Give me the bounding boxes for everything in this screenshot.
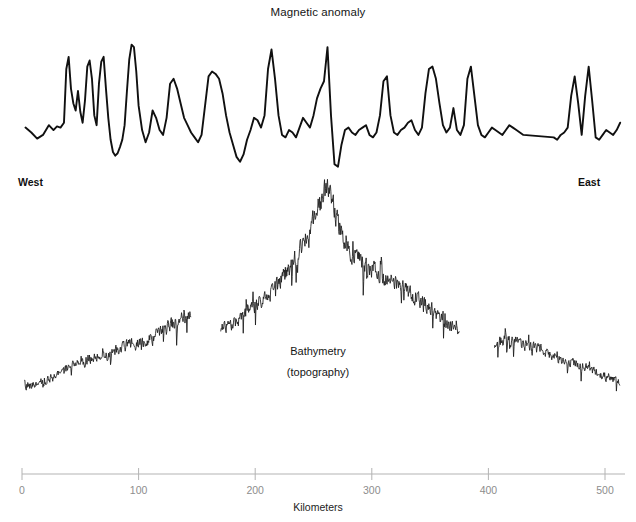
- x-axis-tick-label: 300: [363, 484, 381, 496]
- x-axis-title: Kilometers: [0, 501, 636, 513]
- x-axis: [22, 468, 625, 480]
- direction-label-east: East: [578, 176, 600, 188]
- x-axis-tick-label: 400: [480, 484, 498, 496]
- series-label-bathymetry-sub: (topography): [0, 366, 636, 378]
- magnetic-anomaly-series: [26, 45, 621, 167]
- x-axis-tick-label: 500: [596, 484, 614, 496]
- x-axis-tick-label: 100: [130, 484, 148, 496]
- x-axis-tick-label: 200: [246, 484, 264, 496]
- x-axis-tick-label: 0: [19, 484, 25, 496]
- magnetic-anomaly-line: [26, 45, 621, 167]
- bathymetry-line: [24, 179, 620, 391]
- direction-label-west: West: [18, 176, 43, 188]
- bathymetry-series: [24, 179, 620, 391]
- profile-figure: Magnetic anomaly West East Bathymetry (t…: [0, 0, 636, 522]
- chart-title-magnetic-anomaly: Magnetic anomaly: [0, 6, 636, 18]
- plot-canvas: [0, 0, 636, 522]
- series-label-bathymetry: Bathymetry: [0, 345, 636, 357]
